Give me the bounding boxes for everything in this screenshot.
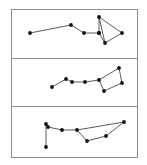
panel-middle-node-4 [97,78,101,82]
panel-bottom-node-0 [44,145,48,149]
panel-bottom-node-3 [60,128,64,132]
panel-middle-node-6 [117,66,121,70]
figure-container [0,0,147,165]
panel-bottom-node-7 [122,120,126,124]
panel-middle-node-3 [83,80,87,84]
panel-middle-node-2 [70,80,74,84]
panel-top-node-6 [120,31,124,35]
panel-bottom-node-2 [46,125,50,129]
panel-top-node-4 [97,15,101,19]
panel-top-node-2 [82,31,86,35]
panel-bottom-node-5 [85,139,89,143]
node-link-figure [0,0,147,165]
panel-middle-node-0 [50,85,54,89]
panel-top-node-7 [97,31,101,35]
panel-bottom-node-6 [104,134,108,138]
panel-middle-node-7 [120,81,124,85]
panel-top-node-5 [103,41,107,45]
panel-middle-node-1 [64,77,68,81]
panel-top-node-1 [69,23,73,27]
panel-middle-node-5 [102,89,106,93]
panel-bottom-node-4 [75,128,79,132]
panel-top-node-0 [28,31,32,35]
